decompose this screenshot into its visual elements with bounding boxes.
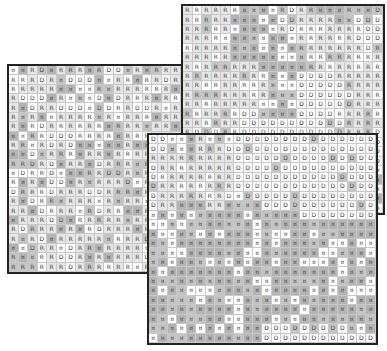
grid-cell: D [300,201,309,210]
grid-cell: D [316,72,326,81]
cell-symbol: ¤ [161,221,165,227]
grid-cell: R [193,6,203,15]
cell-symbol: ¤ [135,179,139,185]
cell-symbol: ¤ [217,278,221,284]
grid-cell: D [307,109,317,118]
grid-cell: R [85,234,95,243]
grid-cell: ¤ [133,141,143,150]
grid-cell: D [281,173,290,182]
grid-cell: R [19,188,29,197]
cell-symbol: ¤ [246,259,250,265]
grid-cell: ¤ [38,178,48,187]
grid-cell: R [221,119,231,128]
cell-symbol: R [78,254,82,260]
cell-symbol: D [368,212,373,218]
grid-cell: ¤ [215,258,224,267]
grid-cell: R [114,206,124,215]
cell-symbol: R [126,105,130,111]
cell-symbol: ¤ [265,250,269,256]
grid-cell: R [124,141,134,150]
grid-cell: ¤ [85,85,95,94]
cell-symbol: ¤ [274,278,278,284]
cell-symbol: ¤ [246,278,250,284]
cell-symbol: R [78,217,82,223]
cell-symbol: ¤ [261,7,265,13]
grid-cell: R [259,91,269,100]
grid-cell: ¤ [38,150,48,159]
grid-cell: R [114,75,124,84]
grid-cell: ¤ [269,44,279,53]
cell-symbol: ¤ [236,221,240,227]
cell-symbol: D [245,165,250,171]
grid-cell: D [307,91,317,100]
cell-symbol: R [180,183,184,189]
cell-symbol: ¤ [151,240,155,246]
grid-cell: R [297,15,307,24]
cell-symbol: R [189,155,193,161]
cell-symbol: R [204,54,208,60]
grid-cell: R [326,15,336,24]
cell-symbol: D [318,111,323,117]
grid-cell: R [9,197,19,206]
cell-symbol: R [173,114,177,120]
cell-symbol: R [195,64,199,70]
grid-cell: D [47,141,57,150]
grid-cell: ¤ [124,66,134,75]
grid-cell: R [259,72,269,81]
grid-cell: ¤ [187,201,196,210]
grid-cell: ¤ [291,258,300,267]
cell-symbol: R [280,7,284,13]
cell-symbol: R [107,245,111,251]
grid-cell: R [168,163,177,172]
cell-symbol: D [328,82,333,88]
grid-cell: ¤ [338,230,347,239]
cell-symbol: ¤ [50,114,54,120]
grid-cell: ¤ [225,324,234,333]
cell-symbol: ¤ [217,316,221,322]
cell-symbol: ¤ [199,221,203,227]
cell-symbol: ¤ [107,151,111,157]
cell-symbol: ¤ [208,306,212,312]
grid-cell: D [357,154,366,163]
cell-symbol: ¤ [107,86,111,92]
grid-cell: D [338,182,347,191]
grid-cell: R [193,34,203,43]
cell-symbol: R [173,77,177,83]
cell-symbol: ¤ [252,45,256,51]
cell-symbol: ¤ [180,335,184,341]
cell-symbol: ¤ [274,250,278,256]
cell-symbol: R [252,82,256,88]
grid-cell: ¤ [259,15,269,24]
cell-symbol: R [347,64,351,70]
cell-symbol: ¤ [331,306,335,312]
cell-symbol: D [293,146,298,152]
grid-cell: R [297,44,307,53]
cell-symbol: R [208,165,212,171]
cell-symbol: D [274,155,279,161]
cell-symbol: R [214,120,218,126]
cell-symbol: ¤ [78,208,82,214]
grid-cell: R [193,44,203,53]
cell-symbol: ¤ [284,259,288,265]
cell-symbol: R [126,142,130,148]
cell-symbol: R [11,142,15,148]
grid-cell: D [250,109,260,118]
grid-cell: R [307,15,317,24]
cell-symbol: R [198,165,202,171]
grid-cell: R [326,25,336,34]
cell-symbol: ¤ [274,306,278,312]
grid-cell: R [114,225,124,234]
grid-cell: R [231,109,241,118]
grid-cell: D [47,169,57,178]
cell-symbol: D [359,202,364,208]
cell-symbol: ¤ [255,335,259,341]
cell-symbol: ¤ [340,306,344,312]
cell-symbol: ¤ [180,212,184,218]
grid-cell: R [95,178,105,187]
grid-cell: D [288,15,298,24]
grid-cell: ¤ [278,109,288,118]
cell-symbol: ¤ [281,82,285,88]
grid-cell: ¤ [47,234,57,243]
cell-symbol: ¤ [359,287,363,293]
cell-symbol: D [309,92,314,98]
